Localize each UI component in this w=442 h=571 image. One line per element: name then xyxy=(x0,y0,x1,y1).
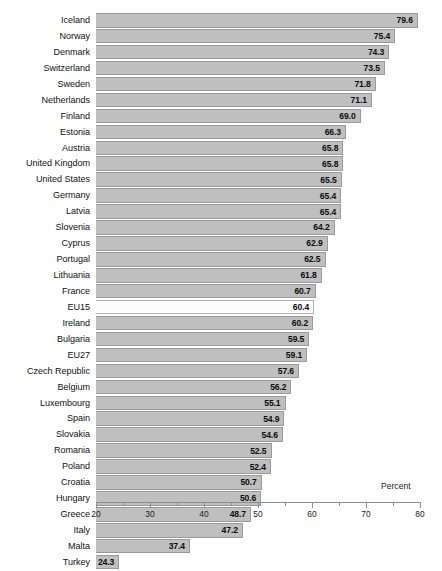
bar-row: Ireland60.2 xyxy=(0,316,442,331)
bar-track: 61.8 xyxy=(96,268,442,283)
bar-value-label: 50.7 xyxy=(240,477,260,487)
x-axis-tick-label: 30 xyxy=(145,509,154,519)
bar: 62.5 xyxy=(96,252,326,267)
bar-row: Estonia66.3 xyxy=(0,125,442,140)
bar-value-label: 65.8 xyxy=(322,143,342,153)
bar: 59.5 xyxy=(96,332,309,347)
bar-row: France60.7 xyxy=(0,284,442,299)
category-label: Finland xyxy=(61,109,95,124)
bar-value-label: 74.3 xyxy=(368,47,388,57)
bar-row: Croatia50.7 xyxy=(0,475,442,490)
bar-row: Spain54.9 xyxy=(0,411,442,426)
bar-value-label: 71.1 xyxy=(351,95,371,105)
bar: 60.4 xyxy=(96,300,314,315)
bar-value-label: 79.6 xyxy=(397,15,417,25)
bar: 71.8 xyxy=(96,77,376,92)
x-axis-tick xyxy=(420,502,421,508)
x-axis-tick xyxy=(204,502,205,508)
category-label: EU15 xyxy=(67,300,95,315)
category-label: EU27 xyxy=(67,348,95,363)
bar-value-label: 59.5 xyxy=(288,334,308,344)
bar-value-label: 66.3 xyxy=(325,127,345,137)
category-label: Italy xyxy=(74,523,95,538)
category-label: Poland xyxy=(62,459,95,474)
bar-track: 64.2 xyxy=(96,220,442,235)
bar-row: Netherlands71.1 xyxy=(0,93,442,108)
bar-track: 52.5 xyxy=(96,443,442,458)
bar: 65.4 xyxy=(96,188,341,203)
bar-rows-container: Iceland79.6Norway75.4Denmark74.3Switzerl… xyxy=(0,13,442,571)
category-label: Latvia xyxy=(66,204,95,219)
bar-track: 66.3 xyxy=(96,125,442,140)
bar: 54.6 xyxy=(96,427,283,442)
category-label: Romania xyxy=(54,443,95,458)
category-label: Estonia xyxy=(60,125,95,140)
bar: 69.0 xyxy=(96,109,361,124)
bar: 73.5 xyxy=(96,61,385,76)
bar-track: 73.5 xyxy=(96,61,442,76)
bar: 60.2 xyxy=(96,316,313,331)
bar-value-label: 62.9 xyxy=(306,238,326,248)
category-label: Czech Republic xyxy=(27,364,95,379)
bar-value-label: 57.6 xyxy=(278,366,298,376)
x-axis-minor-tick xyxy=(285,502,286,506)
bar-row: Turkey24.3 xyxy=(0,555,442,570)
bar-row: Germany65.4 xyxy=(0,188,442,203)
bar: 79.6 xyxy=(96,13,418,28)
bar-value-label: 71.8 xyxy=(354,79,374,89)
bar-track: 56.2 xyxy=(96,380,442,395)
bar: 55.1 xyxy=(96,396,286,411)
bar-track: 69.0 xyxy=(96,109,442,124)
bar-value-label: 69.0 xyxy=(339,111,359,121)
category-label: Netherlands xyxy=(42,93,96,108)
category-label: Turkey xyxy=(63,555,95,570)
x-axis-tick xyxy=(366,502,367,508)
bar-row: Cyprus62.9 xyxy=(0,236,442,251)
bar-row: Lithuania61.8 xyxy=(0,268,442,283)
bar-track: 59.5 xyxy=(96,332,442,347)
bar-track: 60.2 xyxy=(96,316,442,331)
bar-track: 71.8 xyxy=(96,77,442,92)
bar: 61.8 xyxy=(96,268,322,283)
category-label: United Kingdom xyxy=(26,156,95,171)
x-axis-tick xyxy=(312,502,313,508)
x-axis-minor-tick xyxy=(231,502,232,506)
bar-value-label: 64.2 xyxy=(313,222,333,232)
bar-track: 54.6 xyxy=(96,427,442,442)
bar: 64.2 xyxy=(96,220,335,235)
x-axis-tick-label: 80 xyxy=(415,509,424,519)
bar-value-label: 65.4 xyxy=(320,207,340,217)
bar-row: Norway75.4 xyxy=(0,29,442,44)
bar: 24.3 xyxy=(96,555,119,570)
bar-value-label: 62.5 xyxy=(304,254,324,264)
bar: 54.9 xyxy=(96,411,284,426)
bar-row: Finland69.0 xyxy=(0,109,442,124)
category-label: Lithuania xyxy=(54,268,95,283)
bar: 71.1 xyxy=(96,93,372,108)
bar: 50.7 xyxy=(96,475,262,490)
bar-row: Switzerland73.5 xyxy=(0,61,442,76)
bar: 74.3 xyxy=(96,45,389,60)
category-label: Bulgaria xyxy=(57,332,95,347)
bar: 52.4 xyxy=(96,459,271,474)
bar-row: United States65.5 xyxy=(0,172,442,187)
bar-row: Slovakia54.6 xyxy=(0,427,442,442)
bar: 75.4 xyxy=(96,29,395,44)
category-label: Portugal xyxy=(57,252,95,267)
bar-track: 52.4 xyxy=(96,459,442,474)
bar-row: Iceland79.6 xyxy=(0,13,442,28)
bar-value-label: 54.9 xyxy=(263,414,283,424)
bar-track: 79.6 xyxy=(96,13,442,28)
category-label: Austria xyxy=(62,141,95,156)
category-label: Germany xyxy=(53,188,95,203)
category-label: Slovakia xyxy=(56,427,95,442)
bar-row: Poland52.4 xyxy=(0,459,442,474)
bar-value-label: 65.4 xyxy=(320,191,340,201)
category-label: United States xyxy=(36,172,95,187)
bar-track: 65.4 xyxy=(96,188,442,203)
bar-value-label: 55.1 xyxy=(264,398,284,408)
bar-row: United Kingdom65.8 xyxy=(0,156,442,171)
bar-track: 74.3 xyxy=(96,45,442,60)
bar-track: 54.9 xyxy=(96,411,442,426)
bar-track: 71.1 xyxy=(96,93,442,108)
